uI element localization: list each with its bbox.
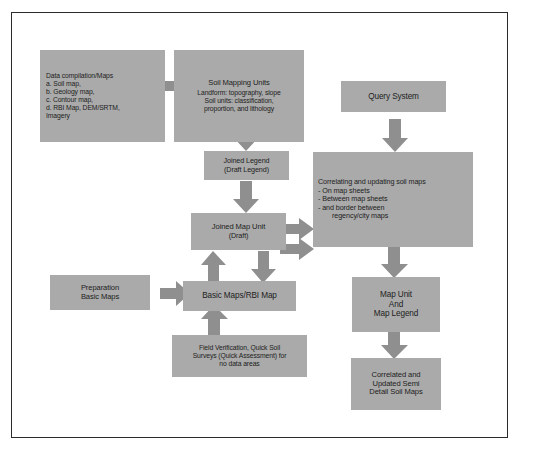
- diagram-page: Data compilation/Maps a. Soil map, b. Ge…: [0, 0, 533, 453]
- node-line: (Draft Legend): [208, 166, 285, 174]
- node-line: c. Contour map,: [46, 96, 161, 104]
- node-line: Detail Soil Maps: [355, 388, 437, 397]
- node-line: Data compilation/Maps: [46, 72, 161, 80]
- node-joined-legend: Joined Legend (Draft Legend): [204, 151, 289, 180]
- arrow-joined-map-unit-to-basic-maps: [251, 251, 276, 283]
- arrow-basic-maps-to-joined-map-unit: [201, 251, 226, 283]
- arrow-query-system-to-correlating: [382, 119, 408, 152]
- node-line: Soil units: classification,: [178, 97, 300, 105]
- node-line: Map Legend: [356, 309, 436, 319]
- node-line: Field Verification, Quick Soil: [176, 344, 303, 352]
- node-title: Soil Mapping Units: [178, 79, 300, 88]
- node-line: d. RBI Map, DEM/SRTM,: [46, 104, 161, 112]
- node-field-verification: Field Verification, Quick Soil Surveys (…: [172, 335, 307, 377]
- arrow-correlating-to-map-unit-legend: [381, 246, 408, 278]
- arrow-joined-legend-to-joined-map-unit: [233, 181, 259, 213]
- node-line: b. Geology map,: [46, 88, 161, 96]
- node-soil-mapping-units: Soil Mapping Units Landform: topography,…: [174, 50, 304, 142]
- node-line: no data areas: [176, 360, 303, 368]
- node-query-system: Query System: [341, 81, 446, 112]
- node-joined-map-unit: Joined Map Unit (Draft): [191, 213, 286, 250]
- node-map-unit-and-legend: Map Unit And Map Legend: [352, 277, 440, 332]
- node-line: Imagery: [46, 112, 161, 120]
- node-correlated-updated-maps: Correlated and Updated Semi Detail Soil …: [351, 358, 441, 410]
- node-line: Basic Maps: [54, 293, 146, 302]
- node-line: a. Soil map,: [46, 80, 161, 88]
- diagram-frame: Data compilation/Maps a. Soil map, b. Ge…: [11, 12, 508, 438]
- node-basic-maps-rbi: Basic Maps/RBI Map: [183, 281, 296, 311]
- node-correlating-updating: Correlating and updating soil maps - On …: [313, 152, 473, 247]
- node-line: (Draft): [195, 232, 282, 240]
- node-line: Landform: topography, slope: [178, 89, 300, 97]
- node-data-compilation: Data compilation/Maps a. Soil map, b. Ge…: [40, 50, 165, 142]
- node-line: Surveys (Quick Assessment) for: [176, 352, 303, 360]
- node-line: proportion, and lithology: [178, 105, 300, 113]
- node-bullet: regency/city maps: [318, 212, 469, 220]
- node-line: And: [356, 300, 436, 310]
- node-preparation-basic-maps: Preparation Basic Maps: [50, 275, 150, 310]
- node-line: Basic Maps/RBI Map: [187, 291, 292, 301]
- node-line: Query System: [345, 92, 442, 102]
- node-line: Map Unit: [356, 290, 436, 300]
